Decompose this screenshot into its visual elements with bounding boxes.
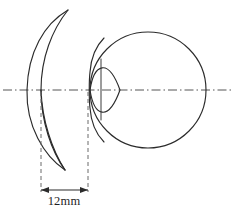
- dimension-arrowhead-right-icon: [80, 187, 88, 193]
- contact-lens-outer-arc: [27, 10, 68, 170]
- contact-lens-eye-diagram: 12mm: [0, 0, 233, 215]
- diagram-canvas: 12mm: [0, 0, 233, 215]
- dimension-label: 12mm: [48, 194, 81, 208]
- dimension-arrowhead-left-icon: [41, 187, 49, 193]
- contact-lens-edge-curve: [41, 90, 65, 170]
